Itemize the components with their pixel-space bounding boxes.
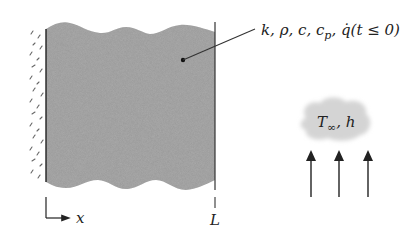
x-axis: x	[46, 197, 85, 227]
fluid-label: T∞, h	[317, 113, 355, 134]
length-label: L	[209, 211, 220, 229]
convection-arrows	[306, 150, 373, 197]
x-axis-label: x	[76, 209, 85, 227]
length-marker: L	[209, 197, 220, 229]
up-arrow-icon	[334, 150, 344, 197]
slab-properties-label: k, ρ, c, cp, q̇(t ≤ 0)	[261, 21, 400, 42]
diagram-canvas: k, ρ, c, cp, q̇(t ≤ 0) x L T∞, h	[0, 0, 402, 241]
fluid-cloud: T∞, h	[301, 98, 371, 141]
up-arrow-icon	[306, 150, 316, 197]
slab-body	[46, 22, 215, 190]
insulation-hatch	[30, 31, 43, 178]
up-arrow-icon	[363, 150, 373, 197]
